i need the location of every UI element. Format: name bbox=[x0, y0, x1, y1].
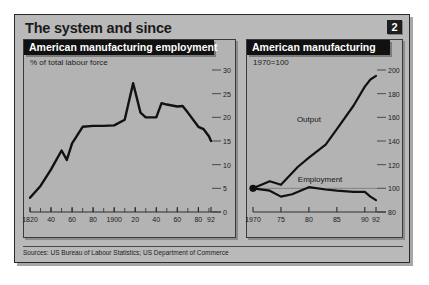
chart-title-employment: American manufacturing employment bbox=[24, 40, 214, 55]
x-axis-tick-label: 85 bbox=[333, 216, 341, 223]
x-axis-tick-label: 60 bbox=[173, 216, 181, 223]
x-axis-tick-label: 75 bbox=[277, 216, 285, 223]
chart-subtitle-manufacturing: 1970=100 bbox=[253, 58, 289, 67]
x-axis-tick-label: 1820 bbox=[22, 216, 38, 223]
x-axis-tick-label: 90 bbox=[361, 216, 369, 223]
x-axis-tick-label: 1970 bbox=[245, 216, 261, 223]
plot-area-employment: 051015202530182040608019002040608092 bbox=[30, 70, 229, 230]
sources-note: Sources: US Bureau of Labour Statistics;… bbox=[23, 246, 403, 256]
chart-subtitle-employment: % of total labour force bbox=[30, 58, 108, 67]
y-axis-tick-label: 25 bbox=[223, 90, 231, 97]
x-axis-tick-label: 92 bbox=[207, 216, 215, 223]
y-axis-tick-label: 0 bbox=[223, 209, 227, 216]
series-label-employment: Employment bbox=[298, 175, 342, 184]
y-axis-tick-label: 180 bbox=[388, 90, 400, 97]
figure-number-badge: 2 bbox=[387, 20, 402, 34]
x-axis-tick-label: 20 bbox=[131, 216, 139, 223]
y-axis-tick-label: 120 bbox=[388, 161, 400, 168]
x-axis-tick-label: 92 bbox=[372, 216, 380, 223]
y-axis-tick-label: 20 bbox=[223, 114, 231, 121]
y-axis-tick-label: 140 bbox=[388, 138, 400, 145]
y-axis-tick-label: 5 bbox=[223, 185, 227, 192]
chart-panel-employment: American manufacturing employment % of t… bbox=[23, 39, 236, 238]
x-axis-tick-label: 80 bbox=[194, 216, 202, 223]
x-axis-tick-label: 80 bbox=[305, 216, 313, 223]
chart-title-manufacturing: American manufacturing bbox=[247, 40, 390, 55]
x-axis-tick-label: 60 bbox=[68, 216, 76, 223]
series-label-output: Output bbox=[297, 115, 321, 124]
page-title: The system and since bbox=[25, 20, 172, 36]
figure-frame: The system and since 2 American manufact… bbox=[14, 14, 410, 263]
screenshot-root: The system and since 2 American manufact… bbox=[0, 0, 429, 285]
plot-area-manufacturing: 8010012014016018020019707580859092Output… bbox=[253, 70, 396, 230]
x-axis-tick-label: 1900 bbox=[106, 216, 122, 223]
chart-panel-manufacturing: American manufacturing 1970=100 80100120… bbox=[246, 39, 403, 238]
x-axis-tick-label: 40 bbox=[152, 216, 160, 223]
line-chart-manufacturing bbox=[253, 70, 396, 230]
line-chart-employment bbox=[30, 70, 229, 230]
y-axis-tick-label: 10 bbox=[223, 161, 231, 168]
x-axis-tick-label: 40 bbox=[47, 216, 55, 223]
x-axis-tick-label: 80 bbox=[89, 216, 97, 223]
y-axis-tick-label: 100 bbox=[388, 185, 400, 192]
y-axis-tick-label: 80 bbox=[388, 209, 396, 216]
y-axis-tick-label: 15 bbox=[223, 138, 231, 145]
y-axis-tick-label: 200 bbox=[388, 67, 400, 74]
y-axis-tick-label: 30 bbox=[223, 67, 231, 74]
y-axis-tick-label: 160 bbox=[388, 114, 400, 121]
